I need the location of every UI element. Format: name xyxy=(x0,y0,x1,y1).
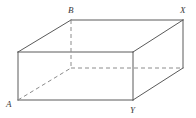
edge-bottom-right-diagonal xyxy=(133,68,183,100)
hidden-edges-group xyxy=(18,20,183,100)
vertex-label-a: A xyxy=(6,100,12,109)
cuboid-drawing xyxy=(0,0,196,118)
vertex-label-b: B xyxy=(68,6,74,15)
geometry-figure-cuboid: BXAY xyxy=(0,0,196,118)
vertex-label-x: X xyxy=(180,6,186,15)
vertex-label-y: Y xyxy=(130,106,135,115)
edge-top-right-diagonal xyxy=(133,20,183,52)
edge-top-left-diagonal xyxy=(18,20,71,52)
visible-edges-group xyxy=(18,20,183,100)
hidden-bottom-left-diagonal xyxy=(18,68,71,100)
